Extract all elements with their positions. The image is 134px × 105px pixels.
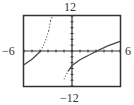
left-branch-segment (24, 59, 32, 65)
left-branch-segment (49, 21, 51, 31)
right-branch-segment (80, 55, 90, 60)
graph-plot (0, 0, 134, 105)
right-branch-segment (64, 71, 68, 79)
left-branch-segment (32, 54, 38, 59)
left-branch-segment (46, 31, 49, 41)
right-branch-segment (97, 46, 107, 51)
axes (24, 16, 120, 86)
left-branch-segment (41, 40, 46, 51)
right-branch-segment (107, 41, 120, 46)
left-branch-segment (50, 16, 52, 21)
